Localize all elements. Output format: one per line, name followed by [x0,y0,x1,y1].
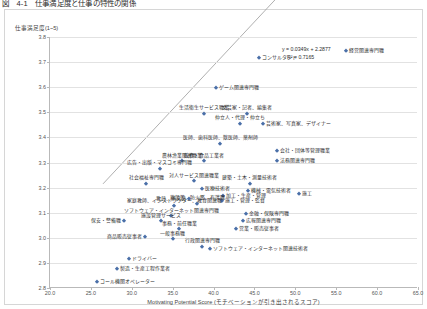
data-point-label: ドライバー [132,257,157,262]
grid-line [50,213,417,214]
y-tick-label: 3.7 [39,59,47,65]
grid-line [50,112,417,113]
x-tick-label: 20.0 [45,290,56,296]
x-tick-label: 60.0 [372,290,383,296]
data-point-label: 広報関連専門職 [246,219,281,224]
data-point-label: 製造・生産工程作業者 [120,267,170,272]
y-tick-label: 3.8 [39,34,47,40]
x-tick-label: 65.0 [413,290,424,296]
x-tick-label: 30.0 [127,290,138,296]
y-tick-mark [47,263,50,264]
grid-line [50,62,417,63]
data-point-label: 保安・警備職 [91,219,121,224]
data-point-label: 法務関連専門職 [280,159,315,164]
y-tick-mark [47,213,50,214]
data-point-label: 事務・前任職業 [162,221,197,226]
data-point-label: 広告・出版・マスコミ専門職 [127,161,192,166]
data-point-label: コンサルタント [262,56,297,61]
grid-line [50,188,417,189]
y-tick-mark [47,238,50,239]
data-point-label: 経営関連専門職 [349,48,384,53]
y-tick-label: 3.4 [39,134,47,140]
data-point-label: 対人サービス関連職業 [169,173,219,178]
plot-area: y = 0.0349x + 2.2877 R² = 0.7165 Motivat… [49,37,417,288]
grid-line [50,37,417,38]
data-point-label: 仲立人・代理・仲立ち [215,116,265,121]
data-point-label: 社会福祉専門職 [129,176,164,181]
y-tick-label: 3.1 [39,210,47,216]
y-tick-mark [47,163,50,164]
x-axis-title: Motivating Potential Score (モチベーションが引き出さ… [50,298,417,306]
figure-caption: 図 4-1 仕事満足度と仕事の特性の関係 [2,0,136,8]
data-point-label: 施設管理サービス [141,214,181,219]
data-point-label: 医療技術者 [205,186,230,191]
y-tick-mark [47,87,50,88]
data-point-label: 一般事務職 [160,231,185,236]
y-tick-mark [47,37,50,38]
y-tick-label: 3.0 [39,235,47,241]
y-tick-label: 3.5 [39,109,47,115]
data-point-label: 建築・土木・測量技術者 [222,176,277,181]
data-point-label: 飲食・食品工業者 [184,153,224,158]
data-point-label: 施工 [302,191,312,196]
y-tick-mark [47,112,50,113]
x-tick-label: 35.0 [167,290,178,296]
grid-line [50,238,417,239]
y-axis-title: 仕事満足度(1~5) [15,24,58,32]
data-point-label: 会社・団体等管理職業 [280,149,330,154]
data-point-label: コール機関オペレーター [100,279,155,284]
y-tick-label: 2.9 [39,260,47,266]
data-point-label: 芸術家、写真家、デザイナー [266,121,331,126]
data-point-label: 施工・管理・監督 [225,199,265,204]
data-point-label: ゲーム関連専門職 [219,86,259,91]
x-tick-label: 55.0 [331,290,342,296]
chart-frame: 仕事満足度(1~5) y = 0.0349x + 2.2877 R² = 0.7… [4,9,423,305]
y-tick-mark [47,62,50,63]
x-tick-label: 25.0 [86,290,97,296]
x-tick-label: 45.0 [249,290,260,296]
x-tick-label: 40.0 [208,290,219,296]
data-point-label: 文芸家・記者、編集者 [222,106,272,111]
data-point-label: 営業・販売従事者 [239,227,279,232]
data-point-label: 商品販売従事者 [107,234,142,239]
figure-container: 図 4-1 仕事満足度と仕事の特性の関係 仕事満足度(1~5) y = 0.03… [0,0,427,309]
x-tick-label: 50.0 [290,290,301,296]
y-tick-mark [47,188,50,189]
trendline-equation: y = 0.0349x + 2.2877 [282,46,331,53]
y-tick-mark [47,137,50,138]
data-point-label: 家庭教師、インストラクター、教育関連職 [127,198,222,203]
data-point-label: 金融・保険専門職 [249,212,289,217]
y-tick-label: 3.6 [39,84,47,90]
grid-line [50,263,417,264]
y-tick-label: 3.3 [39,160,47,166]
data-point-label: 医師、歯科医師、獣医師、薬剤師 [183,136,258,141]
y-tick-label: 3.2 [39,185,47,191]
data-point-label: ソフトウェア・インターネット関連技術者 [213,247,308,252]
grid-line [50,163,417,164]
data-point-label: 行政関連専門職 [185,239,220,244]
